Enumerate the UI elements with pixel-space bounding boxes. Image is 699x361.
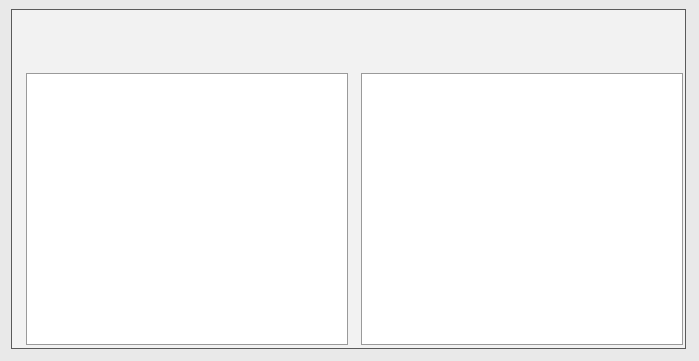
figure-root	[0, 0, 699, 361]
pie-chart-inward	[26, 73, 348, 345]
pie-chart-outward	[361, 73, 683, 345]
pie-chart-inward-svg	[27, 74, 347, 344]
pie-chart-outward-svg	[362, 74, 682, 344]
figure-frame	[11, 9, 686, 349]
